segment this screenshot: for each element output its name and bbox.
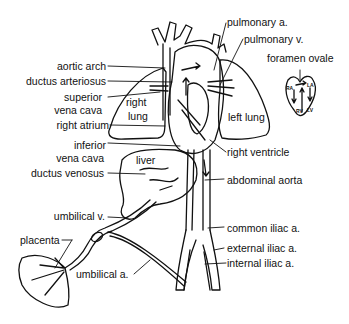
inset-label-rv: RV [296, 105, 303, 117]
inset-label-ra: RA [286, 82, 293, 94]
label-pulmonary-artery: pulmonary a. [227, 16, 288, 28]
label-internal-iliac: internal iliac a. [227, 257, 294, 269]
iliac-arteries [176, 230, 220, 290]
label-umbilical-vein: umbilical v. [54, 210, 105, 222]
label-right-lung-2: lung [128, 110, 148, 122]
label-ductus-venosus: ductus venosus [31, 167, 104, 179]
label-liver: liver [136, 154, 155, 166]
placenta-shape [19, 255, 69, 307]
inset-label-la: LA [307, 79, 314, 91]
liver-shape [120, 149, 197, 219]
label-placenta: placenta [20, 234, 60, 246]
fetal-circulation-diagram [0, 0, 349, 324]
label-abdominal-aorta: abdominal aorta [227, 174, 302, 186]
label-ductus-arteriosus: ductus arteriosus [26, 75, 106, 87]
heart-shape [168, 45, 223, 153]
label-common-iliac: common iliac a. [227, 222, 300, 234]
label-inferior-vena-cava-1: inferior [74, 139, 106, 151]
label-umbilical-artery: umbilical a. [76, 268, 129, 280]
label-external-iliac: external iliac a. [227, 242, 297, 254]
label-foramen-ovale: foramen ovale [267, 52, 334, 64]
label-superior-vena-cava-2: vena cava [54, 104, 102, 116]
label-left-lung: left lung [228, 111, 265, 123]
inset-label-lv: LV [307, 104, 313, 116]
label-right-ventricle: right ventricle [227, 146, 289, 158]
label-pulmonary-vein: pulmonary v. [244, 33, 303, 45]
label-right-lung-1: right [126, 96, 146, 108]
label-aortic-arch: aortic arch [57, 60, 106, 72]
label-superior-vena-cava-1: superior [64, 91, 102, 103]
label-inferior-vena-cava-2: vena cava [56, 152, 104, 164]
label-right-atrium: right atrium [56, 119, 109, 131]
